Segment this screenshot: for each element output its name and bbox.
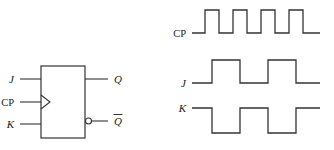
qbar-inversion-bubble-icon [86, 118, 92, 124]
waveform-label-cp: CP [173, 28, 186, 39]
symbol-input-label-cp: CP [1, 97, 14, 108]
waveform-label-k: K [178, 102, 187, 114]
flipflop-symbol-group: J CP K Q Q [1, 66, 122, 138]
waveform-label-j: J [181, 77, 187, 89]
symbol-output-label-q: Q [114, 73, 122, 85]
symbol-input-label-k: K [6, 118, 15, 130]
symbol-output-label-qbar: Q [114, 115, 122, 127]
symbol-input-label-j: J [9, 73, 15, 85]
waveform-k [192, 108, 320, 133]
figure-canvas: J CP K Q Q CP J K [0, 0, 334, 150]
symbol-output-label-qbar-group: Q [114, 115, 123, 128]
flipflop-body [41, 66, 85, 138]
jk-flipflop-figure: J CP K Q Q CP J K [0, 0, 334, 150]
waveform-cp [192, 10, 320, 33]
timing-diagram-group: CP J K [173, 10, 320, 133]
waveform-j [192, 60, 320, 83]
